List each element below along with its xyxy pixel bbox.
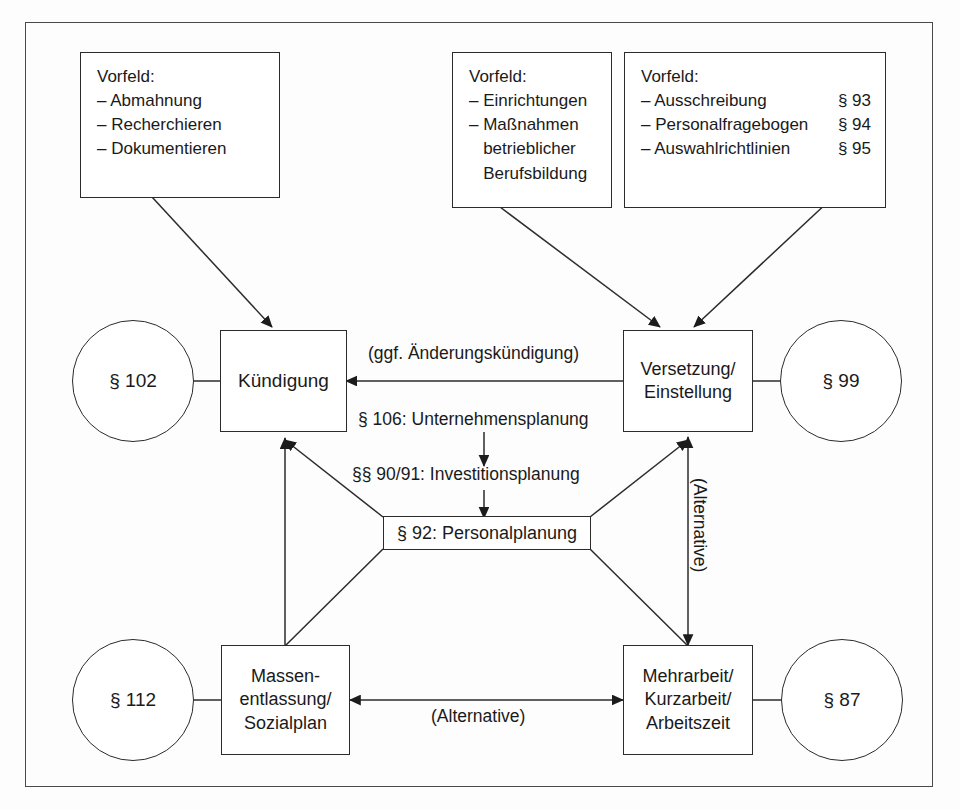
circle-paragraph-99: § 99 xyxy=(780,320,902,442)
info-row-ref xyxy=(579,137,597,161)
info-box-row: – Maßnahmen xyxy=(469,113,597,137)
edge-vorfeld2-to-versetzung xyxy=(500,207,660,327)
info-box-row: – Auswahlrichtlinien § 95 xyxy=(641,137,871,161)
info-row-text: – Dokumentieren xyxy=(97,137,226,161)
info-box-row: – Recherchieren xyxy=(97,113,265,137)
node-label: Kündigung xyxy=(238,369,329,393)
info-box-title: Vorfeld: xyxy=(641,65,871,89)
diagram-canvas: Vorfeld: – Abmahnung – Recherchieren – D… xyxy=(0,0,960,809)
circle-paragraph-102: § 102 xyxy=(72,320,194,442)
info-row-text: – Einrichtungen xyxy=(469,89,587,113)
info-row-ref xyxy=(587,89,605,113)
edge-label-alternative-vertical: (Alternative) xyxy=(691,478,709,572)
node-versetzung-einstellung[interactable]: Versetzung/ Einstellung xyxy=(623,330,753,432)
circle-label: § 112 xyxy=(110,689,156,711)
edge-label-alternative-horizontal: (Alternative) xyxy=(431,708,525,726)
edge-label-text: §§ 90/91: Investitionsplanung xyxy=(352,464,580,484)
info-box-row: – Einrichtungen xyxy=(469,89,597,113)
info-box-row: – Abmahnung xyxy=(97,89,265,113)
info-row-text: – Recherchieren xyxy=(97,113,222,137)
circle-paragraph-87: § 87 xyxy=(781,639,903,761)
info-row-text: – Auswahlrichtlinien xyxy=(641,137,790,161)
info-box-row: betrieblicher xyxy=(469,137,597,161)
info-row-text: – Ausschreibung xyxy=(641,89,767,113)
info-box-row: – Ausschreibung § 93 xyxy=(641,89,871,113)
info-row-ref: § 95 xyxy=(820,137,871,161)
info-box-vorfeld-einstellung: Vorfeld: – Ausschreibung § 93 – Personal… xyxy=(624,52,886,208)
node-label: Massen- entlassung/ Sozialplan xyxy=(239,665,331,734)
info-box-title: Vorfeld: xyxy=(97,65,265,89)
edge-plan-to-mehrarbeit xyxy=(590,549,688,646)
circle-label: § 99 xyxy=(823,370,860,392)
edge-label-text: (Alternative) xyxy=(690,478,710,572)
edge-label-investitionsplanung: §§ 90/91: Investitionsplanung xyxy=(352,466,580,484)
info-row-ref: § 94 xyxy=(820,113,871,137)
edge-label-text: (ggf. Änderungskündigung) xyxy=(368,343,579,363)
info-row-text: Berufsbildung xyxy=(469,162,587,186)
edge-vorfeld1-to-kuendigung xyxy=(152,197,272,327)
edge-plan-to-versetzung xyxy=(590,440,688,517)
plan-box-label: § 92: Personalplanung xyxy=(397,523,577,544)
circle-label: § 102 xyxy=(109,370,157,392)
edge-plan-to-massenentlassung xyxy=(285,549,383,646)
edge-label-unternehmensplanung: § 106: Unternehmensplanung xyxy=(358,411,589,429)
edge-label-aenderungskuendigung: (ggf. Änderungskündigung) xyxy=(368,345,579,363)
edge-vorfeld3-to-versetzung xyxy=(694,200,830,327)
circle-paragraph-112: § 112 xyxy=(72,639,194,761)
info-row-ref xyxy=(579,113,597,137)
info-row-ref xyxy=(247,137,265,161)
info-box-row: – Personalfragebogen § 94 xyxy=(641,113,871,137)
info-row-ref xyxy=(587,162,605,186)
info-row-text: – Abmahnung xyxy=(97,89,202,113)
node-massenentlassung-sozialplan[interactable]: Massen- entlassung/ Sozialplan xyxy=(221,645,350,755)
edge-label-text: § 106: Unternehmensplanung xyxy=(358,409,589,429)
node-kuendigung[interactable]: Kündigung xyxy=(220,330,347,432)
info-row-text: – Personalfragebogen xyxy=(641,113,808,137)
circle-label: § 87 xyxy=(824,689,861,711)
node-personalplanung[interactable]: § 92: Personalplanung xyxy=(383,516,591,550)
info-box-row: – Dokumentieren xyxy=(97,137,265,161)
info-row-ref xyxy=(247,113,265,137)
node-label: Versetzung/ Einstellung xyxy=(640,358,735,404)
info-box-vorfeld-kuendigung: Vorfeld: – Abmahnung – Recherchieren – D… xyxy=(80,52,280,198)
info-box-title: Vorfeld: xyxy=(469,65,597,89)
info-box-row: Berufsbildung xyxy=(469,162,597,186)
info-box-vorfeld-berufsbildung: Vorfeld: – Einrichtungen – Maßnahmen bet… xyxy=(452,52,612,208)
edge-label-text: (Alternative) xyxy=(431,706,525,726)
info-row-ref: § 93 xyxy=(820,89,871,113)
node-mehrarbeit-kurzarbeit-arbeitszeit[interactable]: Mehrarbeit/ Kurzarbeit/ Arbeitszeit xyxy=(623,645,753,755)
node-label: Mehrarbeit/ Kurzarbeit/ Arbeitszeit xyxy=(642,665,733,734)
info-row-ref xyxy=(247,89,265,113)
info-row-text: – Maßnahmen xyxy=(469,113,579,137)
info-row-text: betrieblicher xyxy=(469,137,576,161)
